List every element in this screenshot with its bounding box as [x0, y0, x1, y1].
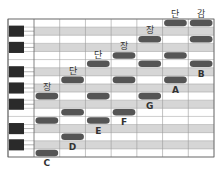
root-label-E: E: [95, 126, 101, 136]
note-A-16: [164, 20, 187, 27]
note-A-9: [164, 77, 187, 84]
note-C-4: [36, 117, 59, 124]
quality-label-F: 장: [120, 41, 128, 51]
note-G-14: [138, 36, 161, 43]
quality-label-G: 장: [146, 25, 154, 35]
pitch-row-B: [34, 60, 214, 68]
pitch-row-G: [34, 92, 214, 100]
root-label-B: B: [198, 69, 205, 79]
quality-label-C: 장: [43, 82, 51, 92]
black-key-G#: [9, 82, 24, 93]
note-G-11: [138, 60, 161, 67]
quality-label-B: 감: [197, 8, 205, 19]
quality-label-E: 단: [94, 50, 102, 60]
black-key-C#2: [9, 42, 24, 53]
note-E-11: [87, 60, 110, 67]
root-label-F: F: [121, 117, 127, 127]
black-key-F#: [9, 99, 24, 110]
piano-keys: [9, 26, 34, 151]
black-key-D#: [9, 123, 24, 134]
note-C-7: [36, 93, 59, 100]
pitch-row-C: [34, 149, 214, 157]
root-label-A: A: [172, 85, 179, 95]
note-D-2: [61, 133, 84, 140]
note-E-4: [87, 117, 110, 124]
pitch-row-F#: [34, 100, 214, 108]
note-C-0: [36, 150, 59, 157]
root-label-G: G: [146, 101, 153, 111]
black-key-C#: [9, 139, 24, 150]
pitch-row-C#: [34, 141, 214, 149]
pitch-rows: [34, 19, 214, 157]
black-key-D#2: [9, 26, 24, 37]
note-F-12: [113, 52, 136, 59]
note-A-12: [164, 52, 187, 59]
piano-roll-diagram: C장D단E단F장G장A단B감: [0, 0, 221, 174]
note-G-7: [138, 93, 161, 100]
root-label-C: C: [44, 158, 51, 168]
pitch-row-E2: [34, 19, 214, 27]
root-label-D: D: [69, 142, 76, 152]
pitch-row-G#: [34, 84, 214, 92]
note-D-5: [61, 109, 84, 116]
note-B-14: [190, 36, 213, 43]
note-F-9: [113, 77, 136, 84]
black-key-A#: [9, 66, 24, 77]
note-F-5: [113, 109, 136, 116]
note-B-11: [190, 60, 213, 67]
pitch-row-D: [34, 133, 214, 141]
quality-label-D: 단: [69, 66, 77, 76]
pitch-row-A#: [34, 68, 214, 76]
note-D-9: [61, 77, 84, 84]
note-B-17: [190, 20, 213, 27]
note-E-7: [87, 93, 110, 100]
pitch-row-D#2: [34, 27, 214, 35]
quality-label-A: 단: [171, 9, 179, 19]
